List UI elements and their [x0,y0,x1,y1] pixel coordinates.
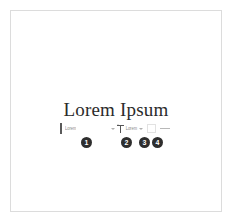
page-title: Lorem Ipsum [0,99,232,121]
font-size-value: Lorem [126,125,137,131]
line-style-selector[interactable] [160,123,170,134]
text-size-icon [117,124,124,133]
chevron-down-icon[interactable] [139,128,143,130]
callout-badge-2: 2 [121,137,132,148]
horizontal-line-icon [160,127,170,131]
page-root: Lorem Ipsum Lorem Lorem [0,0,232,222]
text-color-swatch[interactable] [147,123,156,134]
font-size-selector[interactable]: Lorem [117,123,137,134]
callout-badge-4: 4 [152,137,163,148]
text-caret-icon [60,123,62,134]
formatting-toolbar: Lorem Lorem [60,122,170,135]
callout-badge-1: 1 [81,137,92,148]
font-family-selector[interactable]: Lorem [65,123,103,134]
font-family-value: Lorem [65,125,76,131]
content-area: Lorem Ipsum Lorem Lorem [0,0,232,222]
callout-badge-3: 3 [139,137,150,148]
chevron-down-icon[interactable] [111,128,115,130]
color-swatch-icon [147,124,156,133]
